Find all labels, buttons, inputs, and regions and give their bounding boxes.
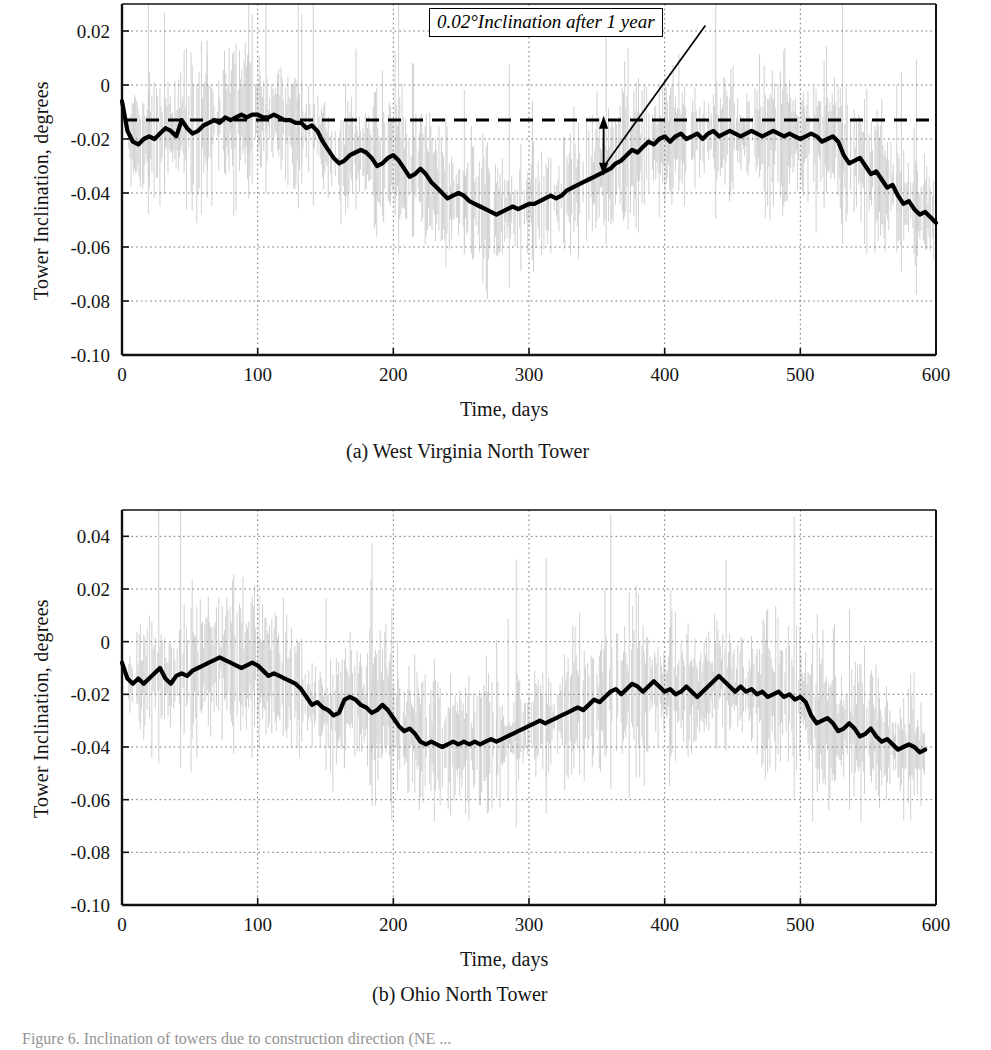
svg-text:600: 600 bbox=[922, 364, 951, 385]
svg-text:0: 0 bbox=[101, 75, 111, 96]
chart-panel-ohio: 0.040.020-0.02-0.04-0.06-0.08-0.10010020… bbox=[0, 478, 991, 1023]
figure-caption: Figure 6. Inclination of towers due to c… bbox=[22, 1030, 451, 1048]
svg-text:500: 500 bbox=[786, 364, 815, 385]
svg-text:0: 0 bbox=[101, 632, 111, 653]
svg-text:600: 600 bbox=[922, 914, 951, 935]
svg-text:0.02: 0.02 bbox=[77, 579, 110, 600]
svg-text:-0.02: -0.02 bbox=[70, 129, 110, 150]
annotation-callout-box: 0.02°Inclination after 1 year bbox=[429, 8, 663, 37]
svg-text:0: 0 bbox=[117, 364, 127, 385]
x-axis-label-b: Time, days bbox=[460, 948, 548, 971]
svg-text:100: 100 bbox=[243, 914, 272, 935]
svg-text:200: 200 bbox=[379, 914, 408, 935]
subcaption-a: (a) West Virginia North Tower bbox=[346, 440, 589, 463]
svg-text:500: 500 bbox=[786, 914, 815, 935]
plot-area-ohio: 0.040.020-0.02-0.04-0.06-0.08-0.10010020… bbox=[0, 478, 991, 1023]
svg-text:200: 200 bbox=[379, 364, 408, 385]
subcaption-b: (b) Ohio North Tower bbox=[372, 983, 547, 1006]
svg-text:-0.08: -0.08 bbox=[70, 842, 110, 863]
svg-text:-0.06: -0.06 bbox=[70, 790, 110, 811]
svg-text:-0.08: -0.08 bbox=[70, 291, 110, 312]
svg-text:300: 300 bbox=[515, 364, 544, 385]
y-axis-label-a: Tower Inclination, degrees bbox=[30, 81, 53, 300]
x-axis-label-a: Time, days bbox=[460, 398, 548, 421]
svg-text:100: 100 bbox=[243, 364, 272, 385]
figure-root: 0.020-0.02-0.04-0.06-0.08-0.100100200300… bbox=[0, 0, 991, 1050]
svg-text:-0.04: -0.04 bbox=[70, 737, 110, 758]
svg-text:-0.06: -0.06 bbox=[70, 237, 110, 258]
svg-text:-0.10: -0.10 bbox=[70, 895, 110, 916]
svg-text:0: 0 bbox=[117, 914, 127, 935]
svg-text:0.04: 0.04 bbox=[77, 526, 111, 547]
svg-text:300: 300 bbox=[515, 914, 544, 935]
svg-text:-0.02: -0.02 bbox=[70, 684, 110, 705]
svg-text:0.02: 0.02 bbox=[77, 21, 110, 42]
svg-text:400: 400 bbox=[650, 914, 679, 935]
svg-text:-0.04: -0.04 bbox=[70, 183, 110, 204]
svg-text:400: 400 bbox=[650, 364, 679, 385]
y-axis-label-b: Tower Inclination, degrees bbox=[30, 599, 53, 818]
svg-text:-0.10: -0.10 bbox=[70, 345, 110, 366]
